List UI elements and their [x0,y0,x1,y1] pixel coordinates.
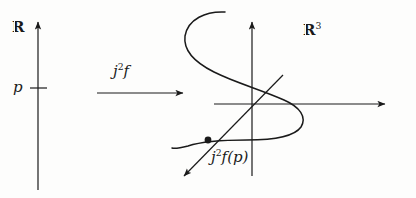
domain-point-label: p [13,80,23,95]
image-operator-argument-glyph: (p) [227,148,248,166]
blackboard-R-glyph: R [12,20,24,35]
codomain-axis-label: R3 [303,21,321,38]
codomain-exponent-glyph: 3 [315,20,321,31]
diagram-canvas [0,0,416,198]
blackboard-R-glyph: R [303,23,315,38]
mapping-operator-label: j2f [113,62,129,79]
domain-axis-label: R [12,20,24,35]
operator-function-glyph: f [124,62,130,80]
jet-diagram-figure: R p j2f R3 j2f(p) [0,0,416,198]
image-point-dot [205,137,212,144]
jet-curve [172,12,303,148]
image-point-label: j2f(p) [211,148,248,165]
